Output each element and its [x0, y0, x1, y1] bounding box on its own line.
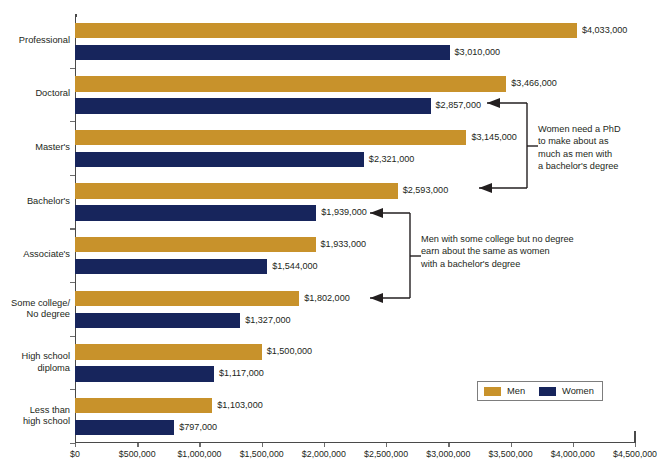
bar-women: $1,939,000	[75, 205, 316, 221]
category-label: Less than high school	[0, 405, 70, 428]
bar-value-label: $3,466,000	[506, 76, 557, 92]
x-axis: $0$500,000$1,000,000$1,500,000$2,000,000…	[75, 443, 635, 469]
x-axis-tick	[635, 443, 636, 447]
category-label: Professional	[0, 35, 70, 46]
category-group: Doctoral$3,466,000$2,857,000	[0, 68, 653, 122]
category-label: Doctoral	[0, 89, 70, 100]
x-axis-tick-label: $1,500,000	[240, 449, 284, 459]
x-axis-tick	[511, 443, 512, 447]
bar-value-label: $1,939,000	[316, 205, 367, 221]
category-label: Some college/ No degree	[0, 297, 70, 320]
x-axis-tick	[199, 443, 200, 447]
legend-item-women: Women	[539, 386, 594, 396]
x-axis-tick-label: $3,500,000	[489, 449, 533, 459]
bar-men: $3,145,000	[75, 130, 466, 146]
bar-value-label: $3,145,000	[466, 130, 517, 146]
bar-value-label: $1,500,000	[262, 344, 313, 360]
annotation-some-college-note: Men with some college but no degree earn…	[421, 233, 636, 270]
bar-men: $1,103,000	[75, 398, 212, 414]
bar-men: $1,933,000	[75, 237, 316, 253]
category-label: High school diploma	[0, 351, 70, 374]
bar-value-label: $3,010,000	[450, 45, 501, 61]
bar-women: $1,544,000	[75, 259, 267, 275]
x-axis-tick-label: $4,000,000	[551, 449, 595, 459]
x-axis-tick-label: $0	[70, 449, 80, 459]
bar-value-label: $797,000	[174, 420, 217, 436]
bar-value-label: $2,321,000	[364, 152, 415, 168]
bar-men: $2,593,000	[75, 183, 398, 199]
bar-value-label: $1,117,000	[214, 366, 264, 382]
bar-value-label: $2,857,000	[431, 98, 482, 114]
bar-women: $1,327,000	[75, 313, 240, 329]
bar-men: $4,033,000	[75, 23, 577, 39]
bar-women: $797,000	[75, 420, 174, 436]
legend-label: Men	[507, 386, 525, 396]
legend-item-men: Men	[484, 386, 525, 396]
category-group: Professional$4,033,000$3,010,000	[0, 14, 653, 68]
x-axis-tick	[75, 443, 76, 447]
chart-legend: MenWomen	[477, 381, 603, 401]
legend-swatch-icon	[539, 387, 556, 396]
x-axis-tick-label: $2,000,000	[302, 449, 346, 459]
x-axis-tick	[324, 443, 325, 447]
x-axis-tick-label: $4,500,000	[613, 449, 657, 459]
x-axis-tick-label: $2,500,000	[364, 449, 408, 459]
bar-value-label: $1,933,000	[316, 237, 367, 253]
x-axis-tick	[573, 443, 574, 447]
category-label: Master's	[0, 142, 70, 153]
x-axis-tick	[262, 443, 263, 447]
bar-men: $3,466,000	[75, 76, 506, 92]
category-label: Bachelor's	[0, 196, 70, 207]
bar-women: $1,117,000	[75, 366, 214, 382]
x-axis-tick-label: $3,000,000	[426, 449, 470, 459]
bar-value-label: $1,544,000	[267, 259, 318, 275]
legend-swatch-icon	[484, 387, 501, 396]
category-label: Associate's	[0, 249, 70, 260]
annotation-phd-note: Women need a PhD to make about as much a…	[538, 123, 646, 173]
bar-value-label: $1,103,000	[212, 398, 263, 414]
bar-value-label: $4,033,000	[577, 23, 628, 39]
bar-women: $2,857,000	[75, 98, 431, 114]
bar-value-label: $2,593,000	[398, 183, 449, 199]
x-axis-tick-label: $500,000	[119, 449, 156, 459]
category-group: Bachelor's$2,593,000$1,939,000	[0, 175, 653, 229]
bar-men: $1,802,000	[75, 291, 299, 307]
bar-value-label: $1,802,000	[299, 291, 350, 307]
legend-label: Women	[562, 386, 594, 396]
x-axis-tick-label: $1,000,000	[177, 449, 221, 459]
x-axis-tick	[386, 443, 387, 447]
x-axis-tick	[448, 443, 449, 447]
category-group: Some college/ No degree$1,802,000$1,327,…	[0, 282, 653, 336]
bar-men: $1,500,000	[75, 344, 262, 360]
x-axis-tick	[137, 443, 138, 447]
bar-women: $2,321,000	[75, 152, 364, 168]
bar-value-label: $1,327,000	[240, 313, 291, 329]
bar-women: $3,010,000	[75, 45, 450, 61]
